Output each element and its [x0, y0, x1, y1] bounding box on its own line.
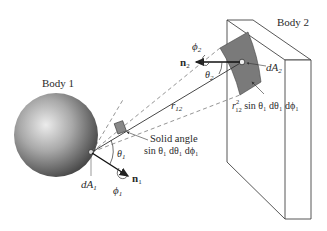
- body-1-sphere: [14, 93, 98, 177]
- theta2-label: θ2: [205, 69, 214, 82]
- da2-label: dA2: [266, 61, 282, 75]
- projected-area-formula: r212 sin θ₁ dθ₁ dϕ₁: [232, 98, 299, 113]
- n1-label: n1: [132, 172, 142, 186]
- solid-angle-formula: sin θ₁ dθ₁ dϕ₁: [144, 145, 198, 156]
- solid-angle-label: Solid angle: [150, 133, 198, 144]
- phi2-rotation-icon: [202, 55, 209, 66]
- phi2-label: ϕ2: [192, 40, 202, 54]
- theta2-arc: [219, 62, 222, 74]
- n2-label: n2: [180, 56, 190, 70]
- body-2-label: Body 2: [277, 16, 309, 28]
- solid-angle-pointer: [127, 132, 148, 140]
- da2-point: [239, 59, 245, 65]
- da1-label: dA1: [81, 178, 97, 192]
- theta1-label: θ1: [117, 148, 125, 161]
- view-factor-diagram: Body 1 Body 2 dA1 n1 ϕ1 θ1 Solid angle s…: [0, 0, 327, 231]
- theta1-arc: [110, 140, 113, 164]
- phi1-label: ϕ1: [113, 184, 122, 198]
- body-1-label: Body 1: [42, 77, 74, 89]
